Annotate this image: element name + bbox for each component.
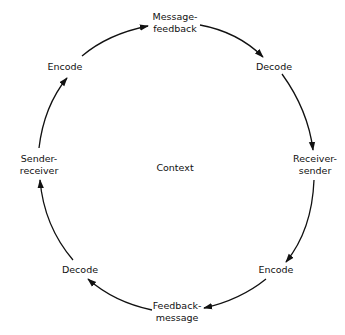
- node-label-line: Decode: [256, 61, 292, 73]
- communication-cycle-diagram: Message- feedback Decode Receiver- sende…: [0, 0, 345, 335]
- node-label-line: Receiver-: [293, 153, 337, 165]
- arrow-decode-to-sender-receiver: [40, 180, 73, 260]
- center-context-label: Context: [156, 162, 193, 174]
- node-label-line: Encode: [259, 264, 294, 276]
- node-label-line: Encode: [48, 61, 83, 73]
- arrow-encode-to-feedback-message: [204, 279, 266, 308]
- node-decode-top: Decode: [256, 61, 292, 73]
- arrow-receiver-sender-to-encode: [286, 180, 314, 262]
- node-label-line: feedback: [152, 23, 197, 35]
- arrow-message-feedback-to-decode: [200, 25, 263, 57]
- node-message-feedback: Message- feedback: [152, 11, 197, 35]
- node-label-line: Feedback-: [153, 300, 202, 312]
- node-label-line: sender: [293, 165, 337, 177]
- node-label-line: Sender-: [20, 153, 59, 165]
- arrow-decode-to-receiver-sender: [282, 74, 313, 150]
- arrow-feedback-message-to-decode: [88, 279, 152, 310]
- arrow-sender-receiver-to-encode: [39, 78, 67, 148]
- node-label-line: receiver: [20, 165, 59, 177]
- arrow-encode-to-message-feedback: [82, 26, 148, 56]
- node-encode-bottom: Encode: [259, 264, 294, 276]
- node-label-line: Decode: [62, 264, 98, 276]
- node-label-line: Message-: [152, 11, 197, 23]
- node-label-line: message: [153, 312, 202, 324]
- node-feedback-message: Feedback- message: [153, 300, 202, 324]
- node-encode-top: Encode: [48, 61, 83, 73]
- node-sender-receiver: Sender- receiver: [20, 153, 59, 177]
- node-receiver-sender: Receiver- sender: [293, 153, 337, 177]
- node-decode-bottom: Decode: [62, 264, 98, 276]
